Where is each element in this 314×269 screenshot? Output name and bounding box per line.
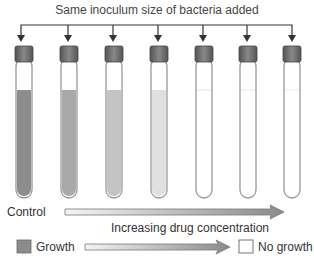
test-tube-6 <box>239 46 257 198</box>
control-label: Control <box>7 205 46 219</box>
growth-legend-label: Growth <box>36 240 75 254</box>
growth-swatch <box>17 240 31 253</box>
inoculum-bracket <box>21 25 292 36</box>
arrow-label: Increasing drug concentration <box>100 221 280 235</box>
test-tube-3 <box>105 46 123 198</box>
test-tube-1 <box>15 46 33 198</box>
test-tube-2 <box>60 46 78 198</box>
no-growth-legend-label: No growth <box>258 240 313 254</box>
inoculum-arrowheads <box>17 35 296 42</box>
test-tube-5 <box>195 46 213 198</box>
test-tube-7 <box>283 46 301 198</box>
legend-arrow <box>85 240 230 254</box>
concentration-arrow <box>65 205 284 219</box>
no-growth-swatch <box>239 240 253 253</box>
test-tube-4 <box>150 46 168 198</box>
